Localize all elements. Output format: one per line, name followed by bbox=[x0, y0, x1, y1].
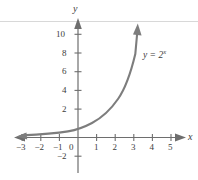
x-tick-label-0: 0 bbox=[69, 143, 74, 152]
graph-canvas bbox=[0, 0, 198, 180]
x-tick-label-5: 5 bbox=[168, 143, 173, 152]
y-axis-arrow-top bbox=[74, 18, 82, 29]
curve-equation-exponent: x bbox=[163, 48, 166, 55]
x-tick-label--2: −2 bbox=[35, 143, 45, 152]
y-tick-label--2: −2 bbox=[57, 152, 67, 161]
y-tick-label-4: 4 bbox=[62, 86, 67, 95]
x-axis-arrow-right bbox=[175, 134, 186, 142]
curve-arrow-top bbox=[133, 24, 142, 36]
y-tick-label-2: 2 bbox=[62, 105, 67, 114]
x-tick-label-2: 2 bbox=[113, 143, 118, 152]
x-tick-label-1: 1 bbox=[94, 143, 99, 152]
curve-equation-label: y = 2x bbox=[143, 51, 166, 61]
curve-equation-base: y = 2 bbox=[143, 50, 163, 60]
y-tick-label-8: 8 bbox=[62, 49, 67, 58]
y-axis-label: y bbox=[73, 4, 77, 14]
x-tick-label-4: 4 bbox=[150, 143, 155, 152]
y-tick-label-10: 10 bbox=[56, 30, 65, 39]
y-axis bbox=[74, 18, 82, 173]
y-tick-label-6: 6 bbox=[62, 67, 67, 76]
exponential-function-graph: y x y = 2x −3 −2 −1 0 1 2 3 4 5 10 8 6 4… bbox=[0, 0, 198, 180]
x-tick-label--3: −3 bbox=[16, 143, 26, 152]
x-axis-label: x bbox=[188, 132, 192, 142]
x-tick-label-3: 3 bbox=[131, 143, 136, 152]
exponential-curve bbox=[17, 24, 142, 140]
